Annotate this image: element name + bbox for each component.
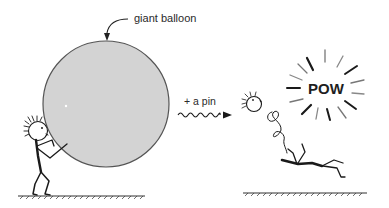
- leg-right: [41, 172, 50, 195]
- head: [247, 97, 262, 112]
- pow-burst: POW: [287, 50, 364, 120]
- balloon-highlight: [65, 105, 67, 107]
- flying-head: [242, 92, 287, 153]
- neck-spring: [268, 111, 287, 153]
- balloon-callout: giant balloon: [104, 12, 196, 41]
- arm-right: [298, 144, 305, 163]
- ground-left: [18, 196, 145, 199]
- stick-figure-knocked-down: [282, 144, 345, 177]
- ground-right: [243, 193, 367, 196]
- scene-after: POW: [242, 50, 367, 196]
- cartoon-illustration: giant balloon: [0, 0, 389, 208]
- scene-before: giant balloon: [18, 12, 196, 199]
- callout-leader-line: [107, 19, 128, 33]
- balloon-callout-label: giant balloon: [134, 12, 196, 24]
- head: [29, 122, 48, 141]
- eye: [252, 99, 254, 101]
- arrowhead-icon: [223, 112, 232, 119]
- eye: [41, 127, 43, 129]
- pow-text: POW: [308, 80, 345, 97]
- torso: [282, 160, 322, 166]
- callout-arrowhead-icon: [104, 33, 110, 41]
- leg-upper: [322, 160, 343, 166]
- transition-arrow: + a pin: [178, 95, 232, 119]
- pin-label: + a pin: [184, 95, 216, 107]
- leg-left: [33, 172, 41, 195]
- leg-lower: [323, 166, 345, 177]
- wavy-arrow-line: [178, 113, 220, 117]
